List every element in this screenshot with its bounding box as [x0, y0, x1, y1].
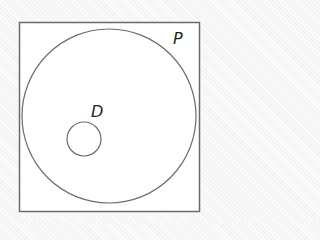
set-d-label: D: [91, 102, 103, 121]
set-p-label: P: [173, 29, 183, 48]
venn-diagram: P D: [0, 0, 211, 223]
universe-rectangle: [20, 23, 200, 212]
